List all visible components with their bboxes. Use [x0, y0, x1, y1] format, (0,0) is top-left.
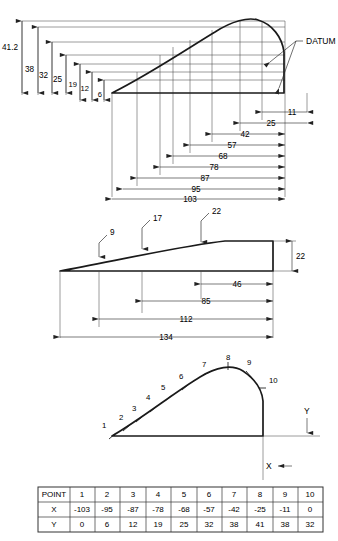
point-label-6: 6 [179, 372, 183, 381]
dim-vertical-32: 32 [39, 71, 49, 80]
axis-label-y: Y [304, 406, 310, 416]
table-cell-y-1: 0 [80, 520, 85, 529]
table-cell-y-3: 12 [129, 520, 138, 529]
table-cell-y-5: 25 [180, 520, 189, 529]
dim-horizontal-57: 57 [227, 141, 237, 150]
dim-middle-46: 46 [232, 280, 242, 289]
dim-horizontal-11: 11 [288, 108, 297, 117]
table-cell-point-3: 3 [131, 490, 136, 499]
dim-vertical-6: 6 [98, 90, 102, 99]
table-header-x: X [51, 505, 57, 514]
table-cell-point-6: 6 [207, 490, 212, 499]
table-cell-x-9: -11 [280, 505, 292, 514]
table-header-point: POINT [42, 490, 67, 499]
table-cell-point-10: 10 [306, 490, 315, 499]
dim-horizontal-78: 78 [209, 163, 219, 172]
dim-horizontal-103: 103 [183, 195, 197, 204]
table-cell-y-6: 32 [205, 520, 214, 529]
technical-drawing-sheet: 41.2 38 32 25 19 12 6 11 25 42 57 68 [0, 0, 338, 541]
dim-vertical-12: 12 [81, 84, 89, 93]
table-cell-y-4: 19 [154, 520, 163, 529]
table-cell-point-4: 4 [156, 490, 161, 499]
leader-dim-17: 17 [153, 214, 163, 223]
table-cell-point-5: 5 [182, 490, 187, 499]
datum-label: DATUM [306, 36, 336, 46]
point-label-3: 3 [132, 404, 136, 413]
table-cell-x-5: -68 [178, 505, 190, 514]
table-cell-x-7: -42 [228, 505, 240, 514]
point-label-10: 10 [269, 376, 278, 385]
table-cell-y-8: 41 [256, 520, 265, 529]
table-cell-point-1: 1 [80, 490, 85, 499]
dim-horizontal-95: 95 [191, 185, 201, 194]
table-cell-x-6: -57 [203, 505, 215, 514]
table-cell-x-1: -103 [74, 505, 91, 514]
table-cell-point-7: 7 [232, 490, 237, 499]
dim-middle-134: 134 [159, 333, 173, 342]
leader-dim-9: 9 [110, 228, 115, 237]
point-label-7: 7 [202, 360, 206, 369]
table-cell-y-7: 38 [230, 520, 239, 529]
dim-horizontal-42: 42 [240, 130, 250, 139]
table-header-y: Y [51, 520, 57, 529]
table-cell-point-9: 9 [283, 490, 288, 499]
table-cell-y-10: 32 [306, 520, 315, 529]
dim-vertical-41-2: 41.2 [2, 43, 18, 52]
table-cell-x-4: -78 [152, 505, 164, 514]
table-cell-x-8: -25 [254, 505, 266, 514]
dim-middle-112: 112 [179, 315, 192, 324]
dim-horizontal-68: 68 [218, 152, 228, 161]
axis-label-x: X [266, 461, 272, 471]
table-cell-x-2: -95 [101, 505, 113, 514]
point-label-5: 5 [161, 383, 166, 392]
table-cell-x-10: 0 [308, 505, 313, 514]
point-label-9: 9 [247, 358, 251, 367]
table-cell-point-2: 2 [105, 490, 110, 499]
table-cell-y-9: 38 [281, 520, 290, 529]
leader-dim-22: 22 [212, 207, 222, 216]
point-label-2: 2 [119, 413, 123, 422]
point-label-8: 8 [226, 353, 230, 362]
point-label-4: 4 [146, 393, 151, 402]
dim-middle-85: 85 [201, 297, 211, 306]
dim-height-22: 22 [296, 252, 306, 261]
dim-vertical-25: 25 [53, 75, 63, 84]
dim-vertical-19: 19 [69, 80, 77, 89]
dim-vertical-38: 38 [25, 65, 35, 74]
dim-horizontal-87: 87 [200, 174, 210, 183]
table-cell-y-2: 6 [105, 520, 110, 529]
point-label-1: 1 [102, 421, 106, 430]
table-cell-x-3: -87 [127, 505, 139, 514]
table-cell-point-8: 8 [258, 490, 263, 499]
dim-horizontal-25: 25 [266, 119, 276, 128]
